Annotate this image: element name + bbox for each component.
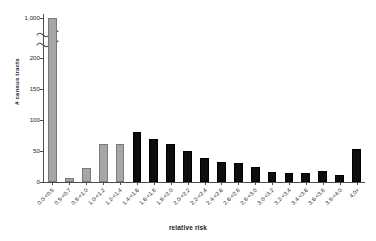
x-tick-mark bbox=[255, 182, 256, 185]
y-tick-label-1000: 1,000 bbox=[25, 14, 40, 21]
x-tick-label: 0.8-<1.0 bbox=[70, 187, 89, 206]
bar bbox=[217, 162, 226, 182]
x-tick-label: 3.0-<3.2 bbox=[256, 187, 275, 206]
x-tick-label: 3.4-<3.6 bbox=[290, 187, 309, 206]
x-tick-mark bbox=[238, 182, 239, 185]
x-tick-label: 1.0-<1.2 bbox=[87, 187, 106, 206]
x-tick-label: 2.6-<2.8 bbox=[222, 187, 241, 206]
x-tick-label: 3.2-<3.4 bbox=[273, 187, 292, 206]
x-tick-label: 1.2-<1.4 bbox=[104, 187, 123, 206]
bar bbox=[65, 178, 74, 182]
bar-series bbox=[44, 0, 365, 182]
bar bbox=[285, 173, 294, 182]
bar bbox=[116, 144, 125, 182]
y-tick-label-150: 150 bbox=[30, 85, 40, 92]
bar bbox=[133, 132, 142, 182]
bar bbox=[200, 158, 209, 182]
x-tick-label: 3.6-<3.8 bbox=[307, 187, 326, 206]
bar bbox=[234, 163, 243, 182]
x-tick-mark bbox=[69, 182, 70, 185]
x-tick-mark bbox=[221, 182, 222, 185]
y-tick-label-100: 100 bbox=[30, 116, 40, 123]
bar bbox=[251, 167, 260, 182]
y-tick-mark-1000 bbox=[40, 18, 43, 19]
x-tick-label: 1.6-<1.8 bbox=[138, 187, 157, 206]
y-tick-mark-150 bbox=[40, 89, 43, 90]
x-tick-mark bbox=[306, 182, 307, 185]
y-tick-mark-200 bbox=[40, 58, 43, 59]
x-axis-title: relative risk bbox=[0, 224, 376, 231]
y-axis-labels: 0501001502001,000 bbox=[0, 0, 40, 241]
y-tick-mark-0 bbox=[40, 182, 43, 183]
bar bbox=[82, 168, 91, 182]
x-tick-mark bbox=[120, 182, 121, 185]
x-tick-label: 2.4-<2.6 bbox=[205, 187, 224, 206]
x-tick-mark bbox=[154, 182, 155, 185]
x-tick-label: 4.0+ bbox=[348, 187, 360, 199]
x-tick-label: 3.8-<4.0 bbox=[324, 187, 343, 206]
x-tick-mark bbox=[357, 182, 358, 185]
x-tick-mark bbox=[86, 182, 87, 185]
y-tick-mark-50 bbox=[40, 151, 43, 152]
x-tick-mark bbox=[188, 182, 189, 185]
bar bbox=[352, 149, 361, 182]
x-tick-mark bbox=[137, 182, 138, 185]
x-tick-label: 1.8-<2.0 bbox=[155, 187, 174, 206]
x-tick-label: 2.8-<3.0 bbox=[239, 187, 258, 206]
x-tick-label: 1.4-<1.6 bbox=[121, 187, 140, 206]
x-tick-mark bbox=[289, 182, 290, 185]
x-tick-mark bbox=[272, 182, 273, 185]
y-tick-mark-100 bbox=[40, 120, 43, 121]
x-tick-label: 0.5-<0.7 bbox=[53, 187, 72, 206]
x-tick-mark bbox=[205, 182, 206, 185]
x-tick-mark bbox=[171, 182, 172, 185]
bar bbox=[149, 139, 158, 182]
bar bbox=[48, 18, 57, 182]
bar bbox=[268, 172, 277, 182]
bar bbox=[183, 151, 192, 182]
y-tick-label-50: 50 bbox=[33, 147, 40, 154]
bar bbox=[318, 171, 327, 182]
bar bbox=[166, 144, 175, 182]
x-tick-label: 2.0-<2.2 bbox=[172, 187, 191, 206]
bar-chart: # census tracts 0501001502001,000 0.0-<0… bbox=[0, 0, 376, 241]
x-tick-mark bbox=[340, 182, 341, 185]
x-tick-label: 2.2-<2.4 bbox=[189, 187, 208, 206]
bar bbox=[335, 175, 344, 182]
bar bbox=[99, 144, 108, 182]
x-tick-mark bbox=[323, 182, 324, 185]
x-tick-mark bbox=[52, 182, 53, 185]
bar bbox=[301, 173, 310, 182]
y-tick-label-200: 200 bbox=[30, 54, 40, 61]
x-tick-mark bbox=[103, 182, 104, 185]
